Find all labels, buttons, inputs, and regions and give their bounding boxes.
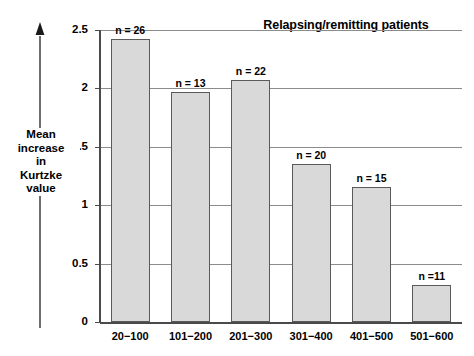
y-axis-label-line-5: value [2, 182, 80, 196]
y-axis-label: Mean increase in Kurtzke value [2, 128, 80, 196]
y-axis-label-line-2: increase [2, 142, 80, 156]
bar-201−300 [231, 80, 270, 322]
chart-figure: Relapsing/remitting patients Mean increa… [0, 0, 474, 356]
bar-annotation-501−600: n =11 [392, 270, 472, 282]
y-tick-mark [95, 147, 100, 148]
x-tick-label-501−600: 501−600 [392, 330, 472, 342]
gridline-0 [100, 322, 462, 324]
y-tick-label-1: 1 [52, 198, 88, 210]
bar-annotation-301−400: n = 20 [271, 149, 351, 161]
gridline-1 [100, 205, 462, 206]
y-axis-label-line-4: Kurtzke [2, 169, 80, 183]
bar-20−100 [111, 39, 150, 322]
y-axis-line [99, 30, 101, 323]
bar-annotation-101−200: n = 13 [151, 77, 231, 89]
gridline-0.5 [100, 264, 462, 265]
bar-annotation-20−100: n = 26 [90, 24, 170, 36]
y-tick-mark [95, 88, 100, 89]
bar-401−500 [352, 187, 391, 322]
y-tick-mark [95, 322, 100, 323]
y-tick-label-0: 0 [52, 315, 88, 327]
page-margin-artifact [460, 14, 474, 70]
y-tick-label-0.5: 0.5 [52, 257, 88, 269]
y-axis-label-line-3: in [2, 155, 80, 169]
y-tick-label-2: 2 [52, 81, 88, 93]
y-tick-mark [95, 205, 100, 206]
y-tick-mark [95, 264, 100, 265]
gridline-1.5 [100, 147, 462, 148]
bar-annotation-401−500: n = 15 [332, 172, 412, 184]
bar-annotation-201−300: n = 22 [211, 65, 291, 77]
bar-501−600 [412, 285, 451, 322]
y-tick-label-2.5: 2.5 [52, 23, 88, 35]
y-axis-label-line-1: Mean [2, 128, 80, 142]
bar-301−400 [292, 164, 331, 322]
bar-101−200 [171, 92, 210, 322]
